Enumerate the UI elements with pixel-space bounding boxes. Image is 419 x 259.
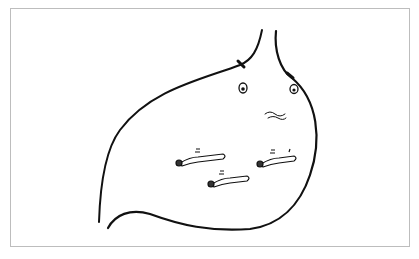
stomach-illustration	[0, 0, 419, 259]
stomach-outline-right	[108, 31, 316, 230]
worm-1	[176, 149, 225, 166]
stomach-outline-left	[99, 30, 262, 222]
eye-right	[290, 85, 298, 94]
eye-left	[239, 83, 247, 93]
wavy-lines	[265, 112, 286, 120]
worm-3	[257, 149, 296, 167]
worm-2	[208, 171, 249, 187]
clip-right	[287, 73, 293, 78]
